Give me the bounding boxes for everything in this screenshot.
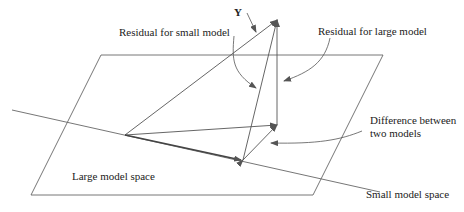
- residual-small-vector: [243, 20, 277, 160]
- small-fit-vector: [125, 135, 241, 160]
- small-model-space-label: Small model space: [366, 188, 449, 200]
- large-model-space-label: Large model space: [72, 170, 155, 182]
- y-pointer-arrow: [247, 13, 256, 32]
- y-label: Y: [234, 6, 242, 18]
- difference-label-line2: two models: [370, 127, 421, 139]
- residual-small-label: Residual for small model: [119, 26, 230, 38]
- large-fit-vector: [125, 125, 277, 135]
- difference-label-line1: Difference between: [370, 114, 456, 126]
- residual-large-label: Residual for large model: [318, 25, 427, 37]
- difference-pointer-arrow: [271, 131, 362, 143]
- residual-small-pointer-arrow: [233, 36, 256, 88]
- residual-large-pointer-arrow: [284, 38, 330, 81]
- difference-vector: [243, 125, 277, 160]
